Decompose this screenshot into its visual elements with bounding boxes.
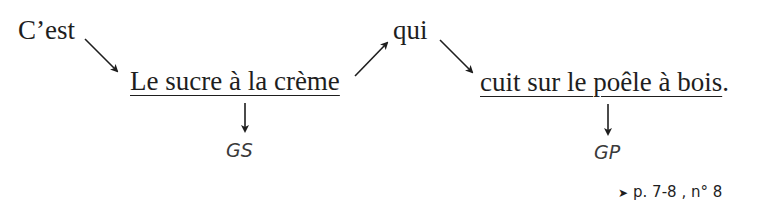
arrow-qui-to-predicate-icon: [440, 40, 472, 72]
predicate-group-label: GP: [594, 143, 620, 162]
subject-group-text: Le sucre à la crème: [130, 68, 340, 95]
relative-pronoun: qui: [393, 17, 428, 44]
intro-word: C’est: [18, 17, 75, 44]
grammar-diagram: C’est Le sucre à la crème qui cuit sur l…: [0, 0, 764, 221]
predicate-group-text: cuit sur le poêle à bois: [480, 67, 722, 97]
page-reference: ➤p. 7-8 , n° 8: [618, 185, 722, 200]
arrow-cest-to-subject-icon: [85, 39, 117, 71]
predicate-group: cuit sur le poêle à bois.: [480, 69, 729, 96]
subject-group-label: GS: [226, 141, 253, 160]
page-reference-text: p. 7-8 , n° 8: [633, 183, 722, 201]
final-punctuation: .: [722, 67, 729, 97]
arrow-subject-to-qui-icon: [355, 43, 387, 76]
arrowhead-right-icon: ➤: [618, 186, 628, 200]
